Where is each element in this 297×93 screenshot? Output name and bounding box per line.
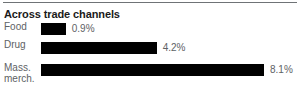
bar-fill	[41, 23, 66, 35]
value-label: 8.1%	[270, 64, 293, 76]
bar-track: 0.9%	[41, 23, 297, 35]
bar-rows: Food 0.9% Drug 4.2% Mass. merch. 8.1%	[0, 22, 297, 86]
chart-title: Across trade channels	[4, 8, 120, 20]
bar-row: Drug 4.2%	[0, 40, 297, 60]
bar-row: Mass. merch. 8.1%	[0, 60, 297, 86]
bar-fill	[41, 64, 264, 76]
bar-track: 4.2%	[41, 42, 297, 54]
category-label: Food	[4, 22, 40, 33]
category-label: Mass. merch.	[4, 63, 40, 84]
bar-track: 8.1%	[41, 64, 297, 76]
category-label: Drug	[4, 40, 40, 51]
bar-fill	[41, 42, 157, 54]
bar-row: Food 0.9%	[0, 22, 297, 40]
chart-container: Across trade channels Food 0.9% Drug 4.2…	[0, 0, 297, 93]
value-label: 4.2%	[163, 42, 186, 54]
value-label: 0.9%	[72, 23, 95, 35]
top-divider-rule	[3, 2, 297, 3]
